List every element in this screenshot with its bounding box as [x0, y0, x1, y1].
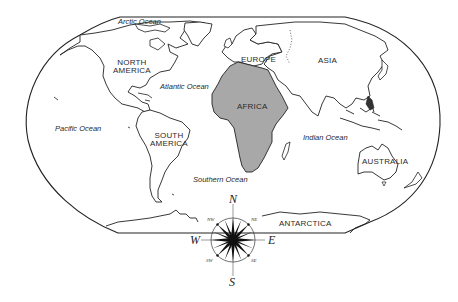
- philippines-shape: [366, 96, 374, 110]
- compass-west-label: W: [190, 234, 200, 246]
- africa-shape: [212, 62, 288, 172]
- antarctica-label: ANTARCTICA: [279, 220, 332, 228]
- asia-label: ASIA: [318, 57, 337, 65]
- arctic-ocean-label: Arctic Ocean: [118, 18, 161, 26]
- indian-ocean-label: Indian Ocean: [303, 134, 348, 142]
- compass-east-label: E: [268, 234, 275, 246]
- world-map: [0, 0, 458, 302]
- south-america-label-line2: AMERICA: [150, 140, 188, 148]
- southern-ocean-label: Southern Ocean: [193, 176, 248, 184]
- south-america-label: SOUTH AMERICA: [150, 132, 188, 148]
- south-america-shape: [136, 110, 190, 202]
- tasmania-shape: [382, 182, 386, 186]
- compass-northeast-label: NE: [251, 217, 257, 222]
- compass-northwest-label: NW: [207, 217, 215, 222]
- compass-rose: [201, 204, 265, 276]
- compass-southeast-label: SE: [251, 258, 257, 263]
- madagascar-shape: [282, 142, 290, 160]
- atlantic-ocean-label: Atlantic Ocean: [160, 83, 209, 91]
- pacific-ocean-label: Pacific Ocean: [55, 125, 101, 133]
- australia-label: AUSTRALIA: [362, 158, 408, 166]
- north-america-label: NORTH AMERICA: [113, 59, 151, 75]
- compass-southwest-label: SW: [206, 258, 213, 263]
- north-america-label-line2: AMERICA: [113, 67, 151, 75]
- africa-label: AFRICA: [237, 103, 268, 111]
- compass-south-label: S: [229, 276, 235, 288]
- greenland-shape: [184, 22, 212, 46]
- compass-north-label: N: [229, 193, 237, 205]
- europe-label: EUROPE: [241, 56, 276, 64]
